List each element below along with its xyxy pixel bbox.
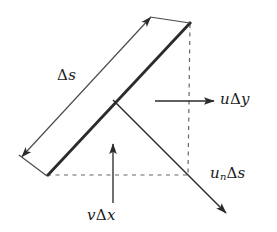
delta-symbol: Δ <box>230 90 241 108</box>
delta-s-label: Δs <box>57 68 76 83</box>
normal-vector-arrow <box>113 100 226 213</box>
u-delta-y-label: uΔy <box>220 92 250 107</box>
un-delta-s-label: unΔs <box>210 166 246 182</box>
delta-symbol: Δ <box>96 206 107 224</box>
x-variable: x <box>107 206 116 224</box>
delta-s-segment <box>47 22 191 176</box>
delta-s-measure-cap-bottom <box>19 155 47 176</box>
v-variable: v <box>87 206 96 224</box>
delta-s-variable: s <box>68 66 76 84</box>
u-variable: u <box>210 164 220 182</box>
v-delta-x-label: vΔx <box>87 208 116 223</box>
figure-container: Δs uΔy unΔs vΔx <box>0 0 277 232</box>
dashed-vertical-edge <box>188 24 190 176</box>
s-variable: s <box>238 164 246 182</box>
u-variable: u <box>220 90 230 108</box>
delta-s-measure-cap-top <box>150 17 190 23</box>
flux-element-diagram <box>0 0 277 232</box>
delta-symbol: Δ <box>226 164 237 182</box>
delta-symbol: Δ <box>57 66 68 84</box>
y-variable: y <box>241 90 250 108</box>
